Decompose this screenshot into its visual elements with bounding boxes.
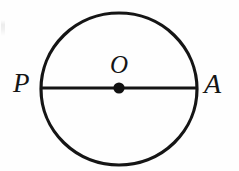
scan-artifact	[1, 20, 5, 36]
point-label-O: O	[110, 52, 128, 77]
point-label-A: A	[204, 70, 221, 98]
circle-diagram: P O A	[0, 0, 239, 171]
center-point-O	[113, 82, 124, 93]
point-label-P: P	[13, 70, 30, 97]
